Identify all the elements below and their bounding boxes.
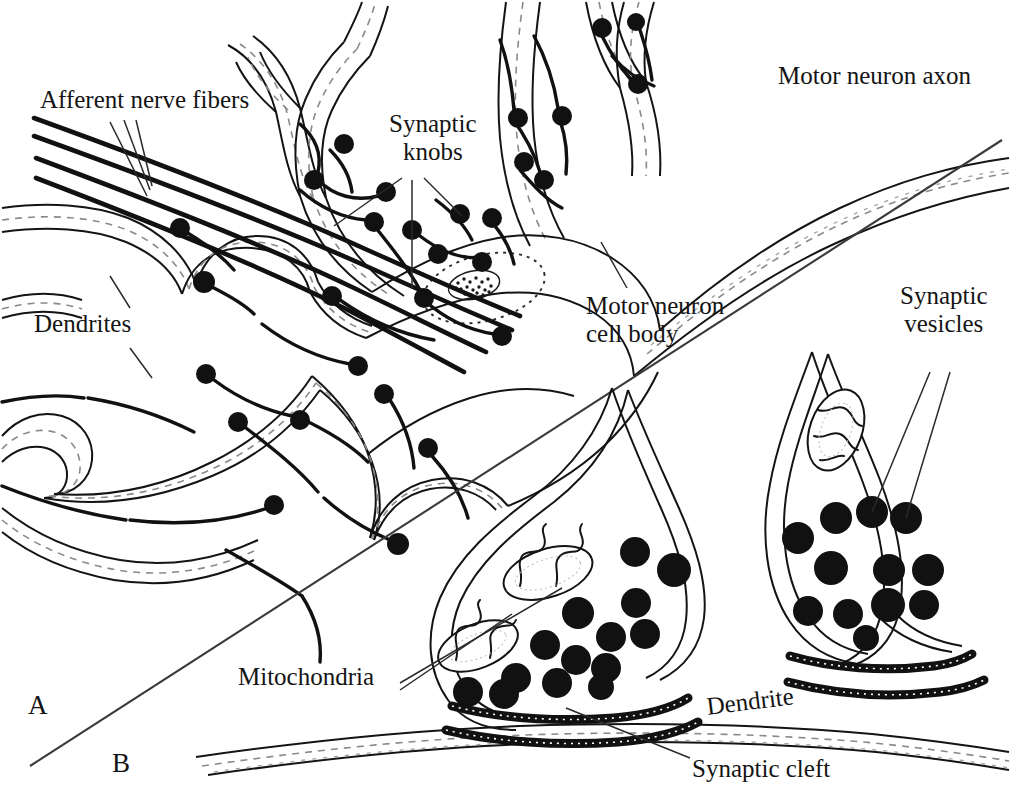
synaptic-knob [428, 244, 448, 264]
synaptic-knob [627, 13, 645, 31]
synaptic-knob [196, 364, 216, 384]
synaptic-knob [492, 326, 512, 346]
figure-canvas: .ink{fill:none;stroke:#141414;} .tube{st… [0, 0, 1011, 795]
synaptic-knob [387, 533, 409, 555]
synaptic-knob [374, 384, 394, 404]
synaptic-knob [290, 410, 310, 430]
label-synaptic-knobs: Synaptic knobs [389, 110, 477, 166]
synaptic-knob [348, 356, 368, 376]
synaptic-knob [193, 271, 215, 293]
label-afferent-nerve-fibers: Afferent nerve fibers [40, 86, 249, 114]
synaptic-knob [514, 152, 534, 172]
label-motor-neuron-cell-body: Motor neuron cell body [586, 292, 724, 348]
label-synaptic-vesicles: Synaptic vesicles [900, 282, 988, 338]
synaptic-knob [322, 286, 342, 306]
label-motor-neuron-axon: Motor neuron axon [778, 62, 971, 90]
panel-label-a: A [28, 690, 48, 720]
synaptic-knob [334, 134, 354, 154]
panel-label-b: B [112, 748, 130, 778]
label-dendrites: Dendrites [34, 310, 131, 338]
neuron-diagram-artwork: .ink{fill:none;stroke:#141414;} .tube{st… [0, 0, 1011, 795]
synaptic-knob [472, 252, 492, 272]
synaptic-knob [264, 495, 284, 515]
synaptic-knob [304, 170, 324, 190]
synaptic-knob [364, 212, 384, 232]
synaptic-knob [228, 412, 248, 432]
synaptic-knob [170, 218, 190, 238]
synaptic-knob [482, 208, 502, 228]
synaptic-knob [418, 438, 438, 458]
label-synaptic-cleft: Synaptic cleft [692, 755, 830, 783]
label-mitochondria: Mitochondria [238, 663, 374, 691]
